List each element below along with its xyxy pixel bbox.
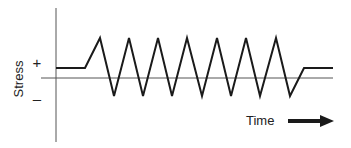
negative-sign: – <box>33 90 42 107</box>
stress-time-diagram: Stress + – Time <box>0 0 351 148</box>
time-arrow-icon <box>288 115 334 127</box>
positive-sign: + <box>33 54 42 71</box>
stress-waveform <box>56 38 333 96</box>
y-axis-label: Stress <box>11 60 26 97</box>
x-axis-label: Time <box>246 113 274 128</box>
